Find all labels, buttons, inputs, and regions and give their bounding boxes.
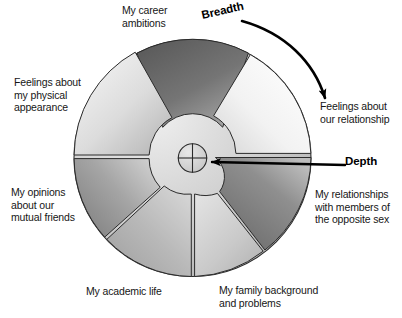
label-family-background: My family background and problems xyxy=(219,284,318,309)
onion-model-diagram xyxy=(0,0,402,318)
label-our-relationship: Feelings about our relationship xyxy=(320,100,389,125)
label-career-ambitions: My career ambitions xyxy=(122,4,167,29)
label-academic-life: My academic life xyxy=(86,285,162,298)
label-opposite-sex: My relationships with members of the opp… xyxy=(315,188,390,226)
figure-canvas: My career ambitions Feelings about my ph… xyxy=(0,0,402,318)
callout-depth-label: Depth xyxy=(345,155,377,167)
label-mutual-friends: My opinions about our mutual friends xyxy=(11,186,75,224)
label-physical-appearance: Feelings about my physical appearance xyxy=(14,76,81,114)
